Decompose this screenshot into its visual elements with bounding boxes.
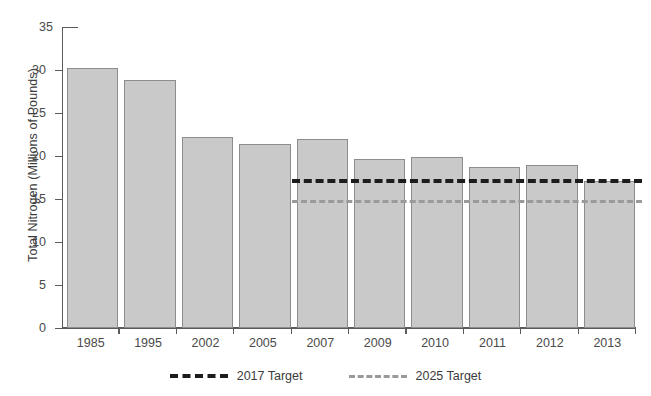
x-axis-tick-label-2010: 2010 bbox=[406, 336, 463, 350]
plot-area: 05101520253035 bbox=[62, 27, 636, 328]
x-axis-tick bbox=[635, 328, 636, 334]
bar-2005 bbox=[239, 144, 290, 328]
x-axis-tick-label-2012: 2012 bbox=[521, 336, 578, 350]
bar-2002 bbox=[182, 137, 233, 328]
bar-2011 bbox=[469, 167, 520, 328]
nitrogen-bar-chart: Total Nitrogen (Millions of Pounds) 0510… bbox=[0, 0, 651, 396]
x-axis-tick-label-2009: 2009 bbox=[349, 336, 406, 350]
y-axis-tick-label: 10 bbox=[32, 235, 46, 249]
bar-1995 bbox=[124, 80, 175, 328]
bars-layer bbox=[62, 27, 636, 328]
y-axis-tick-label: 0 bbox=[39, 321, 46, 335]
bar-2007 bbox=[297, 139, 348, 328]
x-axis-tick bbox=[291, 328, 292, 334]
y-axis-tick-label: 25 bbox=[32, 106, 46, 120]
target-line-2025-target bbox=[292, 200, 642, 203]
bar-1985 bbox=[67, 68, 118, 328]
y-axis-tick-label: 5 bbox=[39, 278, 46, 292]
y-axis-tick-label: 20 bbox=[32, 149, 46, 163]
x-axis-tick-label-2007: 2007 bbox=[292, 336, 349, 350]
y-axis-tick: 25 bbox=[55, 113, 62, 114]
chart-legend: 2017 Target 2025 Target bbox=[0, 365, 651, 387]
x-axis-tick-labels: 1985199520022005200720092010201120122013 bbox=[62, 336, 636, 356]
y-axis-tick-label: 35 bbox=[39, 20, 53, 34]
x-axis-tick bbox=[463, 328, 464, 334]
x-axis-tick bbox=[405, 328, 406, 334]
x-axis-tick-label-1995: 1995 bbox=[119, 336, 176, 350]
x-axis-tick bbox=[233, 328, 234, 334]
x-axis-tick bbox=[118, 328, 119, 334]
legend-item-2017-target: 2017 Target bbox=[170, 369, 303, 383]
y-axis-tick: 0 bbox=[55, 328, 62, 329]
bar-2012 bbox=[526, 165, 577, 328]
x-axis-tick-label-1985: 1985 bbox=[62, 336, 119, 350]
y-axis-tick-label: 15 bbox=[32, 192, 46, 206]
bar-2009 bbox=[354, 159, 405, 328]
x-axis-tick bbox=[520, 328, 521, 334]
bar-2013 bbox=[584, 181, 635, 328]
y-axis-tick: 20 bbox=[55, 156, 62, 157]
y-axis-tick: 15 bbox=[55, 199, 62, 200]
x-axis-tick bbox=[176, 328, 177, 334]
y-axis-tick: 30 bbox=[55, 70, 62, 71]
target-line-2017-target bbox=[292, 179, 642, 183]
legend-label-2025-target: 2025 Target bbox=[416, 369, 482, 383]
x-axis-tick-label-2002: 2002 bbox=[177, 336, 234, 350]
dashed-line-icon-2025 bbox=[349, 375, 407, 378]
x-axis-tick-label-2011: 2011 bbox=[464, 336, 521, 350]
x-axis-tick bbox=[578, 328, 579, 334]
legend-item-2025-target: 2025 Target bbox=[349, 369, 482, 383]
x-axis-tick-label-2013: 2013 bbox=[579, 336, 636, 350]
y-axis-tick: 5 bbox=[55, 285, 62, 286]
legend-label-2017-target: 2017 Target bbox=[237, 369, 303, 383]
y-axis-tick: 10 bbox=[55, 242, 62, 243]
y-axis-tick-label: 30 bbox=[32, 63, 46, 77]
x-axis-tick bbox=[348, 328, 349, 334]
x-axis-tick-label-2005: 2005 bbox=[234, 336, 291, 350]
dashed-line-icon-2017 bbox=[170, 374, 228, 378]
